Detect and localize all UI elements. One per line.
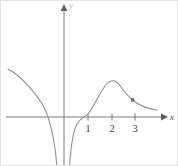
y-axis-label: y	[68, 1, 73, 10]
marked-point-dot	[131, 98, 134, 101]
x-axis-arrow-icon	[161, 114, 168, 121]
x-axis-group: x	[6, 112, 174, 122]
function-graph-figure: x y 1 2 3	[0, 0, 178, 166]
tick-label-3: 3	[132, 122, 138, 134]
y-axis-arrow-icon	[61, 4, 68, 11]
tick-label-2: 2	[109, 122, 115, 134]
graph-canvas: x y 1 2 3	[1, 1, 178, 166]
x-axis-label: x	[169, 112, 174, 122]
tick-label-1: 1	[85, 122, 91, 134]
y-axis-group: y	[61, 1, 73, 166]
